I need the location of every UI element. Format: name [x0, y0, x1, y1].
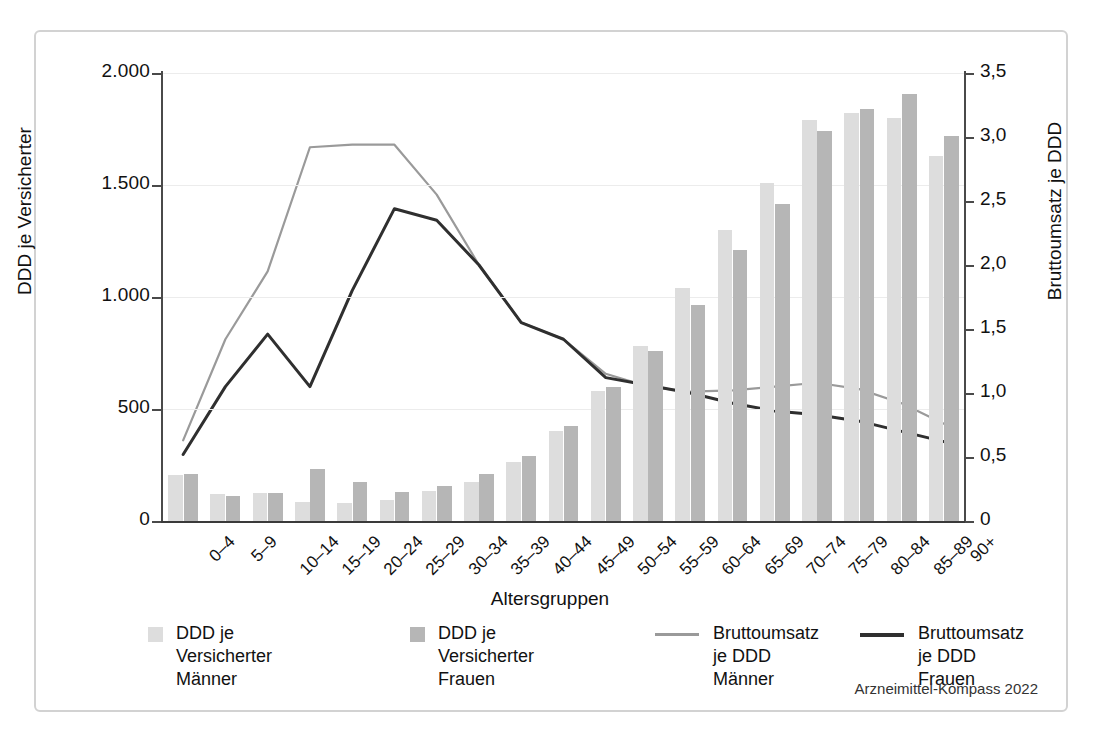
- bar-women: [944, 136, 959, 521]
- legend-label: DDD je Versicherter Männer: [176, 622, 272, 691]
- bar-men: [337, 503, 352, 521]
- y-axis-left-tick-label: 1.500: [50, 172, 150, 194]
- y-axis-left: [161, 71, 163, 523]
- y-axis-left-tick-label: 0: [50, 508, 150, 530]
- bar-men: [295, 502, 310, 521]
- bar-men: [844, 113, 859, 521]
- y-axis-right-title: Bruttoumsatz je DDD: [1044, 46, 1066, 376]
- bar-men: [929, 156, 944, 521]
- x-axis: [161, 521, 966, 523]
- bar-women: [184, 474, 199, 521]
- bar-men: [549, 431, 564, 521]
- y-axis-right-tick: [965, 265, 974, 267]
- bar-men: [633, 346, 648, 521]
- y-axis-right-tick-label: 1,0: [980, 380, 1050, 402]
- legend-line-icon: [860, 633, 904, 637]
- bar-men: [422, 491, 437, 521]
- y-axis-right-tick-label: 3,0: [980, 124, 1050, 146]
- bar-men: [802, 120, 817, 521]
- bar-women: [479, 474, 494, 521]
- legend-line-icon: [655, 633, 699, 636]
- y-axis-left-tick: [152, 409, 161, 411]
- legend-label: DDD je Versicherter Frauen: [438, 622, 534, 691]
- bar-women: [606, 387, 621, 521]
- bar-women: [564, 426, 579, 521]
- bar-women: [522, 456, 537, 521]
- bar-men: [591, 391, 606, 521]
- bar-men: [760, 183, 775, 521]
- y-axis-right-tick: [965, 457, 974, 459]
- bar-women: [310, 469, 325, 521]
- bar-women: [353, 482, 368, 521]
- bar-women: [860, 109, 875, 521]
- y-axis-left-title: DDD je Versicherter: [14, 46, 36, 376]
- bar-men: [380, 500, 395, 521]
- y-axis-right-tick: [965, 137, 974, 139]
- y-axis-left-tick: [152, 521, 161, 523]
- bar-women: [691, 305, 706, 521]
- bar-women: [902, 94, 917, 521]
- bar-men: [506, 462, 521, 521]
- y-axis-right-tick-label: 3,5: [980, 60, 1050, 82]
- bar-women: [817, 131, 832, 521]
- bar-women: [226, 496, 241, 521]
- legend-label: Bruttoumsatz je DDD Männer: [713, 622, 819, 691]
- bar-women: [395, 492, 410, 521]
- bar-men: [210, 494, 225, 521]
- y-axis-right-tick-label: 0: [980, 508, 1050, 530]
- y-axis-right-tick: [965, 521, 974, 523]
- y-axis-left-tick: [152, 185, 161, 187]
- bar-men: [675, 288, 690, 521]
- y-axis-left-tick-label: 2.000: [50, 60, 150, 82]
- gridline: [162, 73, 965, 74]
- bar-men: [168, 475, 183, 521]
- bar-men: [464, 482, 479, 521]
- bar-women: [775, 204, 790, 521]
- y-axis-left-tick: [152, 73, 161, 75]
- x-axis-title: Altersgruppen: [0, 588, 1100, 610]
- y-axis-right-tick-label: 2,5: [980, 188, 1050, 210]
- y-axis-right-tick-label: 2,0: [980, 252, 1050, 274]
- y-axis-right-tick-label: 0,5: [980, 444, 1050, 466]
- bar-women: [437, 486, 452, 521]
- y-axis-right-tick: [965, 73, 974, 75]
- y-axis-right-tick: [965, 393, 974, 395]
- y-axis-left-tick-label: 500: [50, 396, 150, 418]
- y-axis-left-tick: [152, 297, 161, 299]
- y-axis-right-tick: [965, 201, 974, 203]
- bar-women: [648, 351, 663, 521]
- y-axis-right-tick-label: 1,5: [980, 316, 1050, 338]
- bar-men: [887, 118, 902, 521]
- plot-area: [162, 73, 965, 521]
- bar-men: [253, 493, 268, 521]
- bar-women: [268, 493, 283, 521]
- bar-men: [718, 230, 733, 521]
- bar-women: [733, 250, 748, 521]
- source-note: Arzneimittel-Kompass 2022: [855, 680, 1038, 697]
- y-axis-right-tick: [965, 329, 974, 331]
- legend-swatch-icon: [148, 627, 163, 642]
- y-axis-left-tick-label: 1.000: [50, 284, 150, 306]
- legend-swatch-icon: [410, 627, 425, 642]
- chart-figure: 05001.0001.5002.000 00,51,01,52,02,53,03…: [0, 0, 1100, 745]
